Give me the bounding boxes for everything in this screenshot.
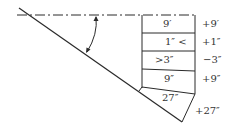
slanted-line [19, 8, 182, 122]
side-value-row-3: −3″ [203, 55, 221, 65]
side-value-row-2: +1″ [202, 37, 220, 47]
side-value-row-4: +9″ [202, 74, 220, 84]
cell-row-2: 1″ < [165, 37, 187, 47]
side-value-row-5: +27″ [195, 106, 220, 116]
diagram-canvas [0, 0, 226, 134]
cell-row-1: 9′ [163, 19, 172, 29]
cell-row-5: 27″ [162, 93, 178, 103]
arrow-head-top-icon [94, 16, 99, 21]
angle-arc [87, 17, 96, 52]
side-value-row-1: +9′ [202, 19, 219, 29]
cell-row-3: >3″ [155, 55, 173, 65]
cell-row-4: 9″ [164, 74, 174, 84]
value-table [139, 15, 195, 122]
arrow-head-bottom-icon [86, 48, 91, 54]
